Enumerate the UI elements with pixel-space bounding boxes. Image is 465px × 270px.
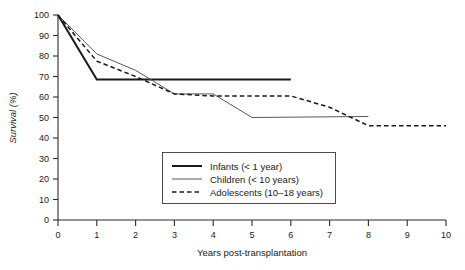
y-tick-label: 30 xyxy=(39,154,49,164)
x-tick-label: 9 xyxy=(405,230,410,240)
x-tick-label: 1 xyxy=(94,230,99,240)
y-axis-ticks xyxy=(53,15,58,220)
y-axis-tick-labels: 0 10 20 30 40 50 60 70 80 90 100 xyxy=(34,10,49,225)
y-axis-title: Survival (%) xyxy=(7,92,18,143)
y-tick-label: 10 xyxy=(39,195,49,205)
series-line-0 xyxy=(58,15,291,80)
x-tick-label: 4 xyxy=(211,230,216,240)
x-tick-label: 5 xyxy=(249,230,254,240)
y-tick-label: 40 xyxy=(39,133,49,143)
x-tick-label: 8 xyxy=(366,230,371,240)
y-tick-label: 60 xyxy=(39,92,49,102)
chart-legend: Infants (< 1 year) Children (< 10 years)… xyxy=(163,153,336,204)
y-tick-label: 90 xyxy=(39,31,49,41)
y-tick-label: 0 xyxy=(44,215,49,225)
survival-chart: 0 10 20 30 40 50 60 70 80 90 100 xyxy=(0,0,465,270)
y-tick-label: 20 xyxy=(39,174,49,184)
x-tick-label: 7 xyxy=(327,230,332,240)
x-tick-label: 3 xyxy=(172,230,177,240)
series-layer xyxy=(58,15,446,126)
series-line-2 xyxy=(58,15,446,126)
legend-label-infants: Infants (< 1 year) xyxy=(210,161,282,172)
series-line-1 xyxy=(58,15,368,118)
x-axis-ticks xyxy=(58,220,446,226)
y-tick-label: 70 xyxy=(39,72,49,82)
legend-label-children: Children (< 10 years) xyxy=(210,174,299,185)
y-tick-label: 100 xyxy=(34,10,49,20)
x-axis-tick-labels: 0 1 2 3 4 5 6 7 8 9 10 xyxy=(55,230,451,240)
x-axis-title: Years post-transplantation xyxy=(197,247,307,258)
x-tick-label: 2 xyxy=(133,230,138,240)
chart-canvas: 0 10 20 30 40 50 60 70 80 90 100 xyxy=(0,0,465,270)
y-tick-label: 50 xyxy=(39,113,49,123)
y-tick-label: 80 xyxy=(39,51,49,61)
x-tick-label: 0 xyxy=(55,230,60,240)
x-tick-label: 6 xyxy=(288,230,293,240)
x-tick-label: 10 xyxy=(441,230,451,240)
legend-label-adolescents: Adolescents (10–18 years) xyxy=(210,187,323,198)
